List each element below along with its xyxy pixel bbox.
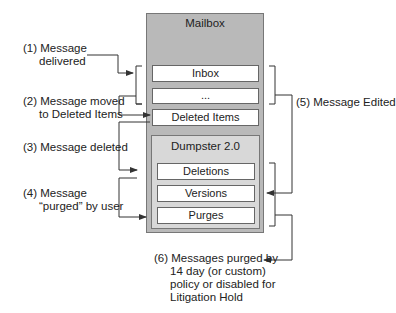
step5-line1: (5) Message Edited xyxy=(296,96,396,109)
step3-label: (3) Message deleted xyxy=(23,141,128,154)
step2-line2: to Deleted Items xyxy=(23,108,125,121)
step2-line1: (2) Message moved xyxy=(23,95,125,108)
step4-line1: (4) Message xyxy=(23,187,123,200)
step4-label: (4) Message “purged” by user xyxy=(23,187,123,213)
step1-label: (1) Message delivered xyxy=(23,42,87,68)
step6-line2: 14 day (or custom) xyxy=(154,265,278,278)
step5-label: (5) Message Edited xyxy=(296,96,396,109)
step2-label: (2) Message moved to Deleted Items xyxy=(23,95,125,121)
step6-line1: (6) Messages purged by xyxy=(154,252,278,265)
step4-line2: “purged” by user xyxy=(23,200,123,213)
step1-line2: delivered xyxy=(23,55,87,68)
step1-line1: (1) Message xyxy=(23,42,87,55)
step6-line4: Litigation Hold xyxy=(154,291,278,304)
step3-line1: (3) Message deleted xyxy=(23,141,128,154)
step6-line3: policy or disabled for xyxy=(154,278,278,291)
step6-label: (6) Messages purged by 14 day (or custom… xyxy=(154,252,278,304)
